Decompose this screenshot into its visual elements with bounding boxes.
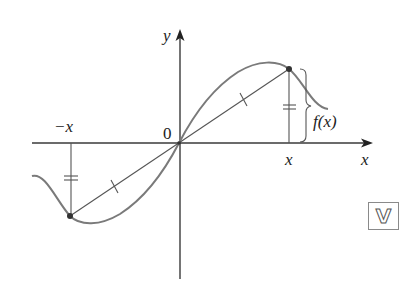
x-axis-label: x — [361, 151, 369, 168]
secant-tick-right — [240, 93, 247, 106]
fx-brace — [300, 69, 311, 142]
y-axis-label: y — [163, 27, 171, 44]
point-right — [286, 66, 292, 72]
fx-label: f(x) — [313, 113, 337, 130]
origin-label: 0 — [163, 125, 172, 142]
secant-tick-left — [111, 180, 118, 193]
section-badge-v: V — [368, 202, 399, 230]
y-axis — [176, 29, 185, 279]
diagram-canvas — [0, 0, 404, 294]
odd-function-diagram: y x 0 −x x f(x) V — [0, 0, 404, 294]
neg-x-label: −x — [54, 118, 73, 135]
point-left — [67, 213, 73, 219]
x-axis — [32, 139, 373, 148]
pos-x-label: x — [285, 151, 293, 168]
point-origin — [177, 141, 181, 145]
